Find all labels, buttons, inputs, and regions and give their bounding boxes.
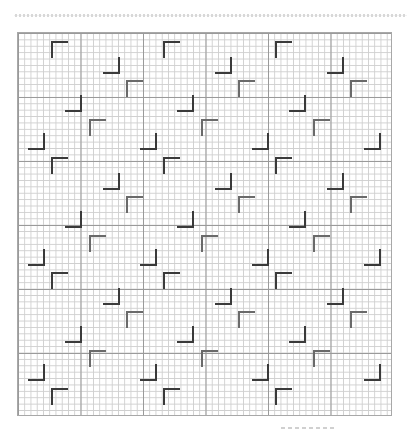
corner-mark-bottom-right (140, 133, 157, 150)
corner-mark-bottom-right (65, 211, 82, 228)
corner-mark-bottom-right (103, 288, 120, 305)
corner-mark-top-left (51, 41, 68, 58)
corner-mark-top-left (238, 80, 255, 97)
corner-mark-top-left (313, 235, 330, 252)
corner-mark-bottom-right (103, 173, 120, 190)
corner-mark-top-left (89, 350, 106, 367)
corner-mark-bottom-right (65, 326, 82, 343)
corner-mark-bottom-right (252, 133, 269, 150)
corner-mark-top-left (51, 157, 68, 174)
corner-mark-bottom-right (28, 133, 45, 150)
corner-mark-top-left (313, 119, 330, 136)
corner-mark-top-left (350, 196, 367, 213)
corner-mark-top-left (275, 388, 292, 405)
corner-mark-bottom-right (140, 249, 157, 266)
corner-mark-bottom-right (177, 326, 194, 343)
corner-mark-top-left (89, 119, 106, 136)
corner-mark-bottom-right (140, 364, 157, 381)
corner-mark-top-left (238, 196, 255, 213)
corner-mark-bottom-right (327, 288, 344, 305)
corner-mark-bottom-right (215, 288, 232, 305)
corner-mark-bottom-right (65, 95, 82, 112)
corner-mark-bottom-right (327, 57, 344, 74)
corner-mark-top-left (126, 196, 143, 213)
corner-mark-bottom-right (252, 249, 269, 266)
corner-mark-top-left (126, 80, 143, 97)
corner-mark-bottom-right (177, 95, 194, 112)
corner-mark-bottom-right (289, 211, 306, 228)
corner-mark-top-left (163, 388, 180, 405)
corner-mark-top-left (163, 41, 180, 58)
corner-mark-bottom-right (364, 133, 381, 150)
corner-mark-top-left (350, 311, 367, 328)
corner-mark-top-left (238, 311, 255, 328)
corner-mark-bottom-right (364, 364, 381, 381)
corner-mark-top-left (201, 350, 218, 367)
corner-mark-bottom-right (28, 364, 45, 381)
corner-mark-top-left (275, 41, 292, 58)
corner-mark-bottom-right (289, 95, 306, 112)
corner-mark-top-left (126, 311, 143, 328)
corner-mark-top-left (201, 119, 218, 136)
corner-mark-bottom-right (103, 57, 120, 74)
corner-mark-bottom-right (364, 249, 381, 266)
corner-mark-bottom-right (215, 173, 232, 190)
corner-mark-top-left (89, 235, 106, 252)
corner-mark-top-left (51, 388, 68, 405)
corner-mark-bottom-right (252, 364, 269, 381)
corner-mark-top-left (313, 350, 330, 367)
corner-mark-bottom-right (327, 173, 344, 190)
corner-mark-top-left (51, 272, 68, 289)
corner-mark-top-left (163, 157, 180, 174)
corner-mark-bottom-right (289, 326, 306, 343)
bottom-dashed-line (281, 427, 337, 429)
corner-mark-top-left (275, 272, 292, 289)
top-dotted-border (14, 13, 407, 18)
corner-mark-top-left (350, 80, 367, 97)
corner-mark-bottom-right (177, 211, 194, 228)
corner-mark-bottom-right (215, 57, 232, 74)
corner-mark-top-left (201, 235, 218, 252)
corner-mark-top-left (275, 157, 292, 174)
corner-mark-top-left (163, 272, 180, 289)
corner-mark-bottom-right (28, 249, 45, 266)
